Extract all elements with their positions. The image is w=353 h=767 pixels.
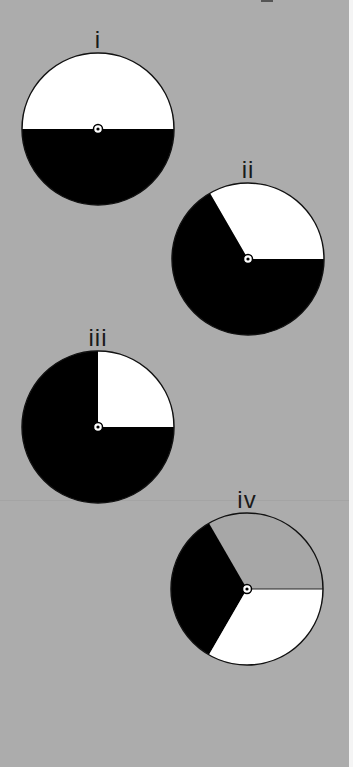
pivot-dot [96, 425, 99, 428]
sector-white [22, 53, 174, 129]
sector-white [98, 351, 174, 427]
pivot-dot [245, 587, 248, 590]
spinner-iv-graphic [167, 509, 327, 669]
top-mark [261, 0, 273, 2]
pivot-dot [96, 127, 99, 130]
spinner-i-graphic [18, 49, 178, 209]
pivot-dot [246, 257, 249, 260]
spinner-iii [18, 347, 178, 507]
spinner-i [18, 49, 178, 209]
spinner-iv [167, 509, 327, 669]
spinner-iii-graphic [18, 347, 178, 507]
page-edge [349, 0, 353, 767]
sector-black [22, 129, 174, 205]
spinner-ii-graphic [168, 179, 328, 339]
spinner-ii [168, 179, 328, 339]
